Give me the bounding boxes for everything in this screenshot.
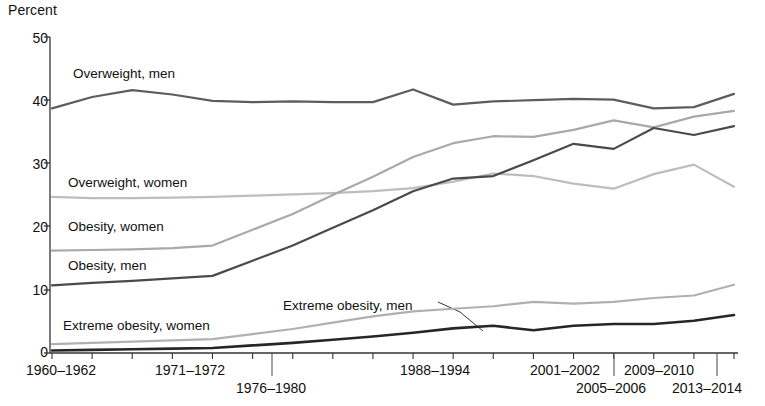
series-line-extreme-obesity-men (52, 315, 734, 350)
series-paths-group (52, 89, 734, 350)
series-line-obesity-men (52, 126, 734, 285)
x-axis-ticks (52, 353, 734, 359)
y-axis-ticks (44, 37, 50, 353)
x-axis-drop-ticks (272, 353, 717, 376)
series-line-overweight-women (52, 165, 734, 199)
chart-container: Percent 50 40 30 20 10 0 1960–1962 1971–… (0, 0, 765, 406)
series-line-overweight-men (52, 89, 734, 108)
series-line-obesity-women (52, 111, 734, 251)
plot-area (0, 0, 765, 406)
